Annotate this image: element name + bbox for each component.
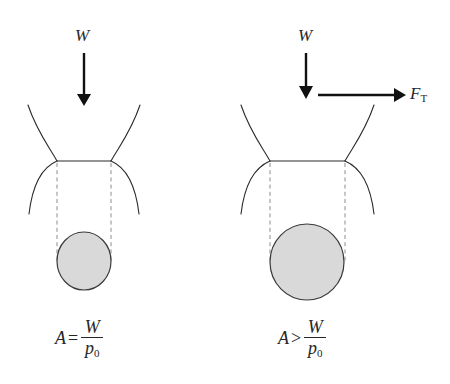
panel-driven-with-traction bbox=[241, 53, 406, 300]
right-equation-denominator-subscript: 0 bbox=[317, 347, 323, 359]
right-equation-numerator: W bbox=[305, 318, 326, 337]
right-tire-upper-left-sidewall bbox=[241, 105, 270, 161]
left-vertical-load-label: W bbox=[75, 27, 89, 44]
left-tire-upper-left-sidewall bbox=[28, 105, 57, 161]
right-equation-lhs: A bbox=[278, 329, 289, 347]
right-equation-denominator: p0 bbox=[305, 338, 326, 359]
left-equation-numerator: W bbox=[82, 318, 103, 337]
left-tire-upper-right-sidewall bbox=[111, 105, 140, 161]
traction-force-label: FT bbox=[410, 85, 427, 104]
right-equation-fraction: W p0 bbox=[304, 318, 326, 359]
left-equation-lhs: A bbox=[55, 329, 66, 347]
right-equation-relation: > bbox=[291, 329, 301, 347]
traction-force-subscript: T bbox=[420, 92, 427, 104]
right-contact-patch bbox=[270, 224, 344, 300]
left-equation-denominator: p0 bbox=[82, 338, 103, 359]
tire-contact-patch-diagram: W W FT A = W p0 A > W p0 bbox=[0, 0, 450, 384]
traction-force-symbol: F bbox=[410, 84, 420, 103]
right-tire-upper-right-sidewall bbox=[345, 105, 374, 161]
left-vertical-load-arrow-head bbox=[77, 94, 91, 106]
left-tire-lower-left-bulge bbox=[29, 161, 57, 214]
right-tire-lower-left-bulge bbox=[241, 161, 270, 214]
right-equation-denominator-symbol: p bbox=[308, 338, 317, 358]
right-tire-lower-right-bulge bbox=[345, 161, 374, 214]
panel-free-rolling bbox=[28, 53, 140, 290]
right-vertical-load-arrow-head bbox=[299, 86, 313, 99]
left-contact-patch bbox=[57, 232, 111, 290]
left-equation-denominator-subscript: 0 bbox=[94, 347, 100, 359]
left-equation-relation: = bbox=[68, 329, 78, 347]
left-tire-lower-right-bulge bbox=[111, 161, 139, 214]
left-equation-denominator-symbol: p bbox=[85, 338, 94, 358]
left-equation-fraction: W p0 bbox=[81, 318, 103, 359]
right-traction-arrow-head bbox=[394, 88, 406, 102]
left-equation: A = W p0 bbox=[55, 318, 103, 359]
right-vertical-load-label: W bbox=[298, 27, 312, 44]
right-equation: A > W p0 bbox=[278, 318, 326, 359]
